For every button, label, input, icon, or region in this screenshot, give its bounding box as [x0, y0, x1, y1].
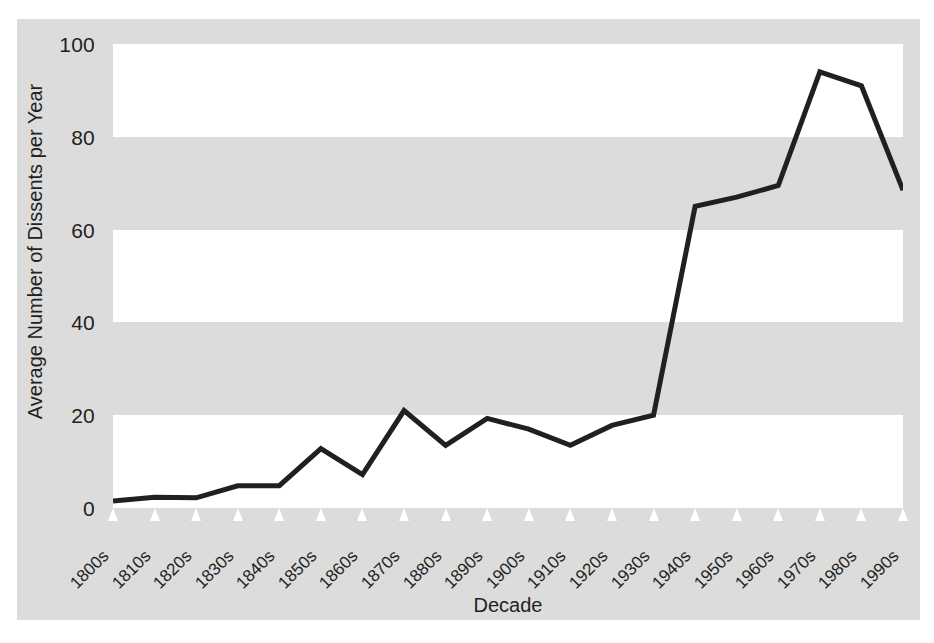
plot-area — [113, 44, 903, 508]
x-axis-tick-marker — [815, 508, 825, 521]
x-axis-title: Decade — [113, 594, 903, 617]
x-axis-tick-marker — [191, 508, 201, 521]
x-axis-tick-label: 1890s — [441, 546, 488, 593]
x-axis-tick-marker — [856, 508, 866, 521]
x-axis-tick-label: 1960s — [732, 546, 779, 593]
x-axis-tick-label: 1990s — [856, 546, 903, 593]
x-axis-tick-marker — [399, 508, 409, 521]
x-axis-tick-label: 1970s — [773, 546, 820, 593]
x-axis-tick-label: 1870s — [357, 546, 404, 593]
x-axis-tick-marker — [732, 508, 742, 521]
x-axis-tick-label: 1830s — [191, 546, 238, 593]
x-axis-tick-label: 1980s — [815, 546, 862, 593]
x-axis-tick-marker — [357, 508, 367, 521]
x-axis-tick-marker — [690, 508, 700, 521]
x-axis-tick-marker — [441, 508, 451, 521]
x-axis-tick-label: 1930s — [607, 546, 654, 593]
x-axis-tick-marker — [150, 508, 160, 521]
x-axis-tick-label: 1880s — [399, 546, 446, 593]
x-axis-tick-marker — [233, 508, 243, 521]
x-axis-tick-marker — [482, 508, 492, 521]
x-axis-tick-marker — [316, 508, 326, 521]
x-axis-tick-marker — [524, 508, 534, 521]
x-axis-tick-label: 1910s — [524, 546, 571, 593]
x-axis-tick-marker — [274, 508, 284, 521]
x-axis-tick-label: 1850s — [274, 546, 321, 593]
x-axis-tick-marker — [565, 508, 575, 521]
x-axis-tick-label: 1920s — [565, 546, 612, 593]
x-axis-tick-markers — [113, 508, 903, 524]
x-axis-tick-marker — [108, 508, 118, 521]
data-series-line — [113, 44, 903, 508]
y-axis-tick-label: 0 — [11, 498, 95, 519]
x-axis-tick-label: 1820s — [149, 546, 196, 593]
x-axis-tick-marker — [649, 508, 659, 521]
y-axis-title: Average Number of Dissents per Year — [24, 42, 47, 462]
x-axis-tick-label: 1950s — [690, 546, 737, 593]
x-axis-tick-marker — [773, 508, 783, 521]
x-axis-tick-labels: 1800s1810s1820s1830s1840s1850s1860s1870s… — [113, 524, 903, 594]
line-chart: 020406080100 Average Number of Dissents … — [0, 0, 934, 643]
x-axis-tick-label: 1900s — [482, 546, 529, 593]
x-axis-tick-marker — [898, 508, 908, 521]
x-axis-tick-label: 1840s — [233, 546, 280, 593]
series-polyline — [113, 72, 903, 501]
x-axis-tick-marker — [607, 508, 617, 521]
x-axis-tick-label: 1860s — [316, 546, 363, 593]
x-axis-tick-label: 1940s — [648, 546, 695, 593]
x-axis-tick-label: 1810s — [108, 546, 155, 593]
